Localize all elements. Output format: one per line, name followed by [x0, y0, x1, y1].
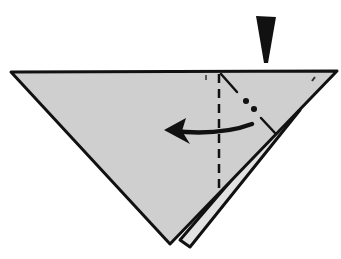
origami-diagram	[0, 0, 341, 259]
paper-triangle	[11, 71, 337, 244]
push-arrow-icon	[256, 16, 276, 63]
